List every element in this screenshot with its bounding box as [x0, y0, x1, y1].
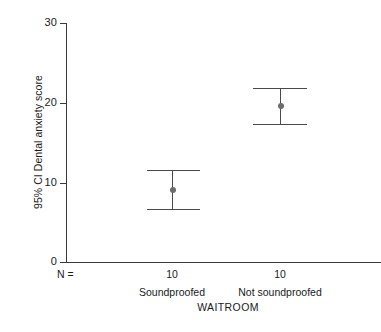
- x-axis-title: WAITROOM: [178, 301, 278, 314]
- y-axis-title: 95% CI Dental anxiety score: [30, 22, 46, 262]
- y-tick-label-0: 0: [51, 256, 57, 267]
- confidence-interval-chart: 30 20 10 0 95% CI Dental anxiety score N…: [0, 0, 381, 332]
- n-value-soundproofed: 10: [152, 268, 192, 280]
- y-tick-label-10: 10: [45, 177, 57, 188]
- y-tick-label-30: 30: [45, 17, 57, 28]
- category-label-soundproofed: Soundproofed: [122, 286, 222, 299]
- errorbar-cap-upper: [147, 170, 200, 171]
- errorbar-cap-lower: [253, 124, 307, 125]
- n-value-not-soundproofed: 10: [260, 268, 300, 280]
- n-prefix-label: N =: [57, 268, 74, 280]
- errorbar-cap-lower: [147, 209, 200, 210]
- mean-marker: [278, 103, 284, 109]
- y-tick-20: [60, 103, 66, 104]
- x-axis-line: [66, 262, 381, 263]
- y-tick-0: [60, 262, 66, 263]
- y-axis-line: [66, 23, 67, 263]
- category-label-not-soundproofed: Not soundproofed: [222, 286, 338, 299]
- y-tick-label-20: 20: [45, 97, 57, 108]
- plot-area: 30 20 10 0 95% CI Dental anxiety score N…: [0, 0, 381, 332]
- y-tick-30: [60, 23, 66, 24]
- mean-marker: [170, 187, 176, 193]
- y-tick-10: [60, 183, 66, 184]
